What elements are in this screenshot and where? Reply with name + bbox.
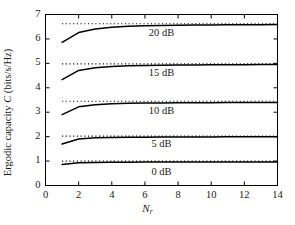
y-axis-tick-label: 6 [27, 32, 41, 43]
y-axis-tick-label: 7 [27, 8, 41, 19]
series-label-20-db: 20 dB [140, 27, 184, 38]
figure-container: Ergodic capacity C (bits/s/Hz) Nr 012345… [0, 0, 295, 225]
y-axis-tick-label: 2 [27, 130, 41, 141]
x-axis-title: Nr [0, 202, 295, 216]
y-axis-title-suffix: (bits/s/Hz) [2, 49, 13, 96]
y-axis-tick-label: 3 [27, 105, 41, 116]
plot-frame [46, 15, 278, 186]
x-axis-tick-label: 4 [102, 189, 122, 200]
y-axis-tick-label: 4 [27, 81, 41, 92]
x-axis-tick-label: 14 [268, 189, 288, 200]
y-axis-tick-label: 1 [27, 154, 41, 165]
x-axis-tick-label: 2 [69, 189, 89, 200]
x-axis-tick-label: 10 [201, 189, 221, 200]
series-label-5-db: 5 dB [140, 138, 184, 149]
x-axis-tick-label: 0 [36, 189, 56, 200]
y-axis-title-symbol: C [2, 96, 13, 103]
series-label-10-db: 10 dB [140, 105, 184, 116]
series-label-15-db: 15 dB [140, 67, 184, 78]
x-axis-tick-label: 6 [135, 189, 155, 200]
y-axis-title-prefix: Ergodic capacity [2, 103, 13, 176]
series-label-0-db: 0 dB [140, 166, 184, 177]
x-axis-title-main: N [142, 202, 149, 214]
x-axis-title-subscript: r [150, 207, 153, 216]
y-axis-tick-label: 5 [27, 56, 41, 67]
y-axis-title: Ergodic capacity C (bits/s/Hz) [0, 0, 16, 225]
x-axis-tick-label: 12 [234, 189, 254, 200]
x-axis-tick-label: 8 [168, 189, 188, 200]
